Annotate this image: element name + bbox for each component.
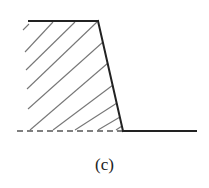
hatch-line: [75, 103, 117, 130]
hatch-pattern: [23, 22, 122, 130]
slope-edge-line: [98, 21, 123, 131]
figure-caption: (c): [0, 155, 209, 175]
hatch-line: [23, 24, 29, 30]
hatch-line: [53, 85, 113, 130]
hatch-line: [26, 22, 75, 70]
hatch-line: [98, 117, 120, 130]
